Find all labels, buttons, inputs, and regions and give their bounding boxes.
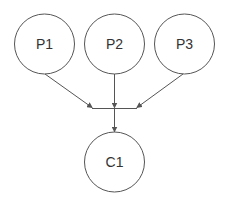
edge-p3-to-junction — [137, 74, 183, 108]
node-p3[interactable]: P3 — [155, 14, 215, 74]
diagram-canvas: P1 P2 P3 C1 — [0, 0, 227, 205]
edge-p1-to-junction — [45, 74, 92, 108]
node-c1[interactable]: C1 — [85, 132, 145, 192]
node-p2-label: P2 — [106, 36, 123, 52]
node-p1-label: P1 — [36, 36, 53, 52]
node-p1[interactable]: P1 — [15, 14, 75, 74]
node-p3-label: P3 — [176, 36, 193, 52]
node-c1-label: C1 — [106, 154, 124, 170]
node-p2[interactable]: P2 — [85, 14, 145, 74]
